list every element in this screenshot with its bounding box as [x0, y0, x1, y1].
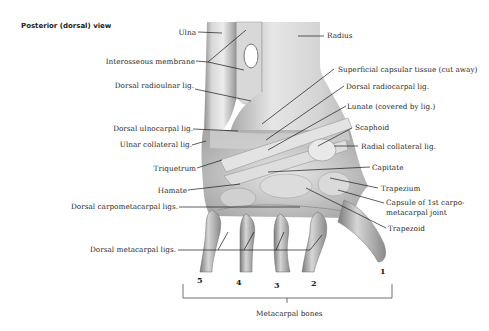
wrist-anatomy-illustration — [0, 0, 489, 331]
metacarpal-number-2: 2 — [311, 278, 317, 288]
label-superficial-capsular-tissue: Superficial capsular tissue (cut away) — [338, 65, 477, 74]
label-radius: Radius — [327, 31, 352, 40]
label-radial-collateral-lig: Radial collateral lig. — [361, 142, 436, 151]
metacarpal-number-3: 3 — [274, 280, 280, 290]
label-lunate: Lunate (covered by lig.) — [347, 102, 435, 111]
metacarpal-number-4: 4 — [236, 277, 242, 287]
label-scaphoid: Scaphoid — [355, 123, 389, 132]
label-hamate: Hamate — [158, 186, 187, 195]
label-dorsal-radiocarpal-lig: Dorsal radiocarpal lig. — [346, 82, 429, 91]
label-triquetrum: Triquetrum — [154, 164, 196, 173]
label-dorsal-metacarpal-ligs: Dorsal metacarpal ligs. — [90, 245, 176, 254]
label-trapezium: Trapezium — [381, 184, 421, 193]
label-capsule-1st-cmc-line1: Capsule of 1st carpo- — [386, 198, 465, 207]
metacarpal-number-1: 1 — [380, 266, 386, 276]
label-dorsal-radioulnar-lig: Dorsal radioulnar lig. — [115, 81, 194, 90]
label-capsule-1st-cmc-line2: metacarpal joint — [386, 208, 447, 217]
label-capitate: Capitate — [372, 163, 403, 172]
label-dorsal-carpometacarpal-ligs: Dorsal carpometacarpal ligs. — [71, 202, 178, 211]
metacarpals-2-5 — [200, 210, 327, 272]
label-interosseous-membrane: Interosseous membrane — [106, 57, 195, 66]
label-ulnar-collateral-lig: Ulnar collateral lig. — [120, 140, 192, 149]
label-trapezoid: Trapezoid — [388, 224, 425, 233]
metacarpal-number-5: 5 — [197, 275, 203, 285]
metacarpal-1 — [338, 200, 386, 262]
label-ulna: Ulna — [178, 28, 196, 37]
label-metacarpal-bones: Metacarpal bones — [256, 309, 323, 318]
metacarpal-bracket — [183, 284, 392, 303]
label-dorsal-ulnocarpal-lig: Dorsal ulnocarpal lig. — [113, 124, 193, 133]
